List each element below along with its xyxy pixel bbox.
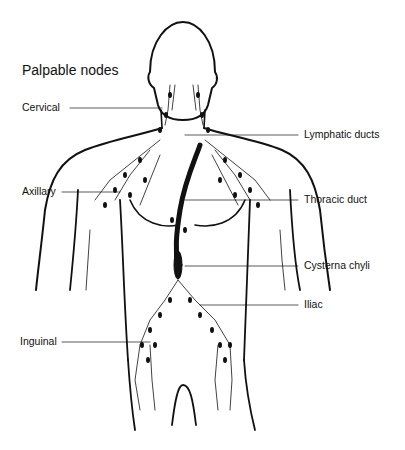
thoracic-duct [176,145,200,270]
label-cysterna-chyli: Cysterna chyli [304,259,370,271]
cysterna-chyli [174,251,182,279]
head-outline [148,22,217,120]
label-axillary: Axillary [22,185,56,197]
label-thoracic-duct: Thoracic duct [304,193,367,205]
label-lymphatic-ducts: Lymphatic ducts [304,128,379,140]
torso-outline-left [36,128,162,290]
diagram-title: Palpable nodes [22,62,119,78]
label-cervical: Cervical [22,101,60,113]
label-iliac: Iliac [304,298,323,310]
label-inguinal: Inguinal [20,335,57,347]
